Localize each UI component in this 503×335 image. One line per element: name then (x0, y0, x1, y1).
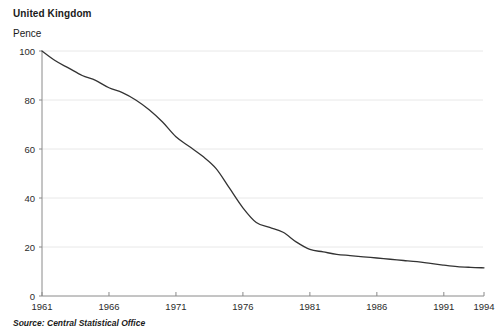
x-tick-label: 1986 (366, 301, 387, 312)
x-tick-label: 1971 (165, 301, 186, 312)
x-tick-label: 1966 (98, 301, 119, 312)
x-tick-label: 1961 (31, 301, 52, 312)
y-tick-label: 80 (24, 95, 35, 106)
x-tick-label: 1976 (232, 301, 253, 312)
y-tick-label: 20 (24, 242, 35, 253)
gridlines-group (42, 51, 483, 247)
y-tick-label: 100 (19, 46, 35, 57)
x-tick-marks-group (42, 292, 484, 296)
line-chart-plot: 020406080100 196119661971197619811986199… (0, 0, 503, 335)
y-tick-labels-group: 020406080100 (19, 46, 35, 302)
source-note: Source: Central Statistical Office (13, 318, 145, 328)
y-tick-label: 40 (24, 193, 35, 204)
data-series-line (42, 51, 484, 268)
x-tick-labels-group: 19611966197119761981198619911994 (31, 301, 494, 312)
x-tick-label: 1991 (433, 301, 454, 312)
x-tick-label: 1981 (299, 301, 320, 312)
x-tick-label: 1994 (473, 301, 494, 312)
chart-figure: United Kingdom Pence 020406080100 196119… (0, 0, 503, 335)
y-tick-label: 60 (24, 144, 35, 155)
y-tick-label: 0 (30, 291, 35, 302)
